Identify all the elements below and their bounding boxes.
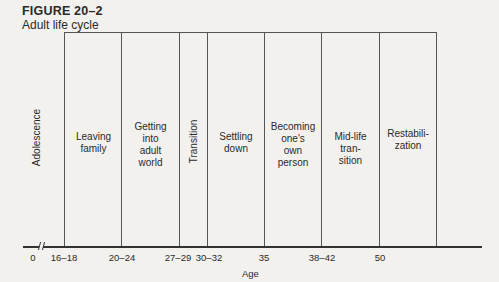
divider-27-29 bbox=[179, 32, 180, 246]
stage-transition: Transition bbox=[188, 112, 199, 172]
tick-20-24: 20–24 bbox=[109, 252, 135, 263]
divider-16-18 bbox=[64, 32, 65, 246]
axis-line bbox=[43, 246, 482, 248]
axis-segment-start bbox=[23, 246, 39, 248]
top-border bbox=[64, 32, 437, 33]
stage-leaving-family: Leaving family bbox=[66, 131, 121, 155]
stage-mid-life-transition: Mid-life tran- sition bbox=[322, 131, 379, 167]
figure-number: FIGURE 20–2 bbox=[22, 4, 103, 18]
stage-becoming-ones-own-person: Becoming one's own person bbox=[265, 121, 321, 169]
figure-title: Adult life cycle bbox=[22, 18, 99, 32]
stage-adolescence: Adolescence bbox=[31, 108, 42, 168]
stage-settling-down: Settling down bbox=[208, 131, 264, 155]
tick-27-29: 27–29 bbox=[165, 252, 191, 263]
axis-break-mark bbox=[38, 242, 41, 250]
tick-35: 35 bbox=[259, 252, 270, 263]
axis-label-age: Age bbox=[242, 268, 259, 279]
divider-end bbox=[436, 32, 437, 246]
stage-restabilization: Restabili- zation bbox=[380, 128, 436, 152]
tick-30-32: 30–32 bbox=[196, 252, 222, 263]
tick-38-42: 38–42 bbox=[309, 252, 335, 263]
tick-0: 0 bbox=[30, 252, 35, 263]
stage-getting-into-adult-world: Getting into adult world bbox=[122, 121, 179, 169]
tick-16-18: 16–18 bbox=[51, 252, 77, 263]
tick-50: 50 bbox=[375, 252, 386, 263]
